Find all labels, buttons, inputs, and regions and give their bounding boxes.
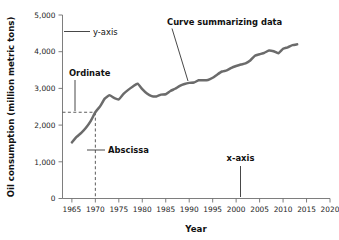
x-tick-label-1985: 1985 [156, 205, 175, 214]
oil-consumption-line-chart: 0 1,000 2,000 3,000 4,000 5,000 19651970… [0, 0, 339, 240]
y-tick-label-3000: 3,000 [34, 84, 55, 93]
x-tick-label-2005: 2005 [250, 205, 269, 214]
x-axis-ticks [72, 199, 330, 203]
annotation-abscissa: Abscissa [87, 145, 149, 155]
y-tick-label-5000: 5,000 [34, 11, 55, 20]
x-tick-label-1980: 1980 [133, 205, 152, 214]
ordinate-annotation-label: Ordinate [69, 68, 111, 78]
x-axis-annotation-label: x-axis [227, 153, 255, 163]
x-tick-label-1975: 1975 [109, 205, 128, 214]
annotation-x-axis: x-axis [227, 153, 255, 197]
abscissa-annotation-label: Abscissa [108, 145, 149, 155]
data-curve [72, 44, 297, 142]
y-axis-tick-labels: 0 1,000 2,000 3,000 4,000 5,000 [34, 11, 55, 204]
x-tick-label-1970: 1970 [86, 205, 105, 214]
x-tick-label-1965: 1965 [62, 205, 81, 214]
y-tick-label-1000: 1,000 [34, 158, 55, 167]
y-tick-label-0: 0 [51, 194, 56, 203]
x-tick-label-1995: 1995 [203, 205, 222, 214]
x-tick-label-2010: 2010 [274, 205, 293, 214]
x-axis-title: Year [184, 224, 207, 234]
y-axis-title: Oil consumption (million metric tons) [6, 17, 16, 198]
annotation-ordinate: Ordinate [69, 68, 111, 111]
x-axis-tick-labels: 1965197019751980198519901995200020052010… [62, 205, 339, 214]
x-tick-label-2020: 2020 [321, 205, 339, 214]
annotation-y-axis: y-axis [64, 27, 118, 37]
y-axis-ticks [59, 15, 63, 199]
curve-leader-line [172, 29, 188, 82]
y-tick-label-2000: 2,000 [34, 121, 55, 130]
x-tick-label-2015: 2015 [297, 205, 316, 214]
x-tick-label-1990: 1990 [180, 205, 199, 214]
chart-figure: 0 1,000 2,000 3,000 4,000 5,000 19651970… [0, 0, 339, 240]
curve-annotation-label: Curve summarizing data [167, 17, 282, 27]
y-axis-annotation-label: y-axis [93, 27, 118, 37]
y-tick-label-4000: 4,000 [34, 47, 55, 56]
x-tick-label-2000: 2000 [227, 205, 246, 214]
